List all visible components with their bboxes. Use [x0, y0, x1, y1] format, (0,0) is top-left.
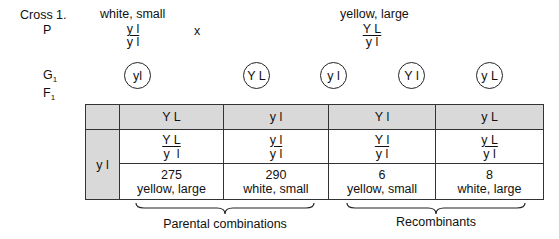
parent2-genotype-bottom: y l: [357, 36, 387, 49]
gamete-circle: y l: [320, 62, 347, 89]
g1-main: G: [43, 68, 53, 82]
gamete-circle: y L: [476, 62, 503, 89]
recombinant-brace-icon: [345, 201, 527, 215]
f1-label: F1: [43, 86, 55, 102]
table-header-row: Y L y l Y l y L: [86, 105, 544, 130]
offspring-phenotype: white, large: [436, 182, 543, 196]
parent2-genotype: Y L y l: [357, 23, 387, 49]
cross-symbol: x: [194, 24, 200, 38]
offspring-count: 6: [329, 168, 435, 182]
column-header: Y l: [329, 105, 436, 130]
genotype-top: y L: [436, 133, 543, 147]
parental-brace-icon: [134, 201, 316, 215]
genotype-cell: Y l y l: [329, 130, 436, 164]
offspring-count: 8: [436, 168, 543, 182]
genotype-bottom: y l: [329, 147, 435, 161]
row-header: y l: [86, 130, 120, 200]
gamete-circle: Y l: [398, 62, 425, 89]
count-cell: 8 white, large: [436, 164, 544, 200]
column-header: y L: [436, 105, 544, 130]
parental-combinations-label: Parental combinations: [160, 217, 290, 231]
punnett-table: Y L y l Y l y L y l Y L y l y l y l Y l …: [85, 104, 544, 200]
genotype-cell: Y L y l: [120, 130, 224, 164]
genotype-top: Y l: [329, 133, 435, 147]
table-corner: [86, 105, 120, 130]
offspring-phenotype: white, small: [224, 182, 328, 196]
g1-label: G1: [43, 68, 57, 84]
count-cell: 275 yellow, large: [120, 164, 224, 200]
parent1-phenotype: white, small: [100, 7, 165, 21]
cross-title: Cross 1.: [20, 8, 67, 22]
g1-sub: 1: [53, 75, 57, 84]
gamete-circle: Y L: [243, 62, 270, 89]
genotype-cell: y l y l: [224, 130, 329, 164]
table-row-genotype: y l Y L y l y l y l Y l y l y L y l: [86, 130, 544, 164]
parent2-phenotype: yellow, large: [340, 7, 409, 21]
genotype-bottom: y l: [224, 147, 328, 161]
offspring-phenotype: yellow, small: [329, 182, 435, 196]
parent1-genotype-bottom: y l: [118, 36, 148, 49]
genotype-top: y l: [224, 133, 328, 147]
column-header: y l: [224, 105, 329, 130]
gamete-circle: yl: [124, 62, 151, 89]
recombinants-label: Recombinants: [376, 215, 496, 229]
genotype-bottom: y l: [436, 147, 543, 161]
count-cell: 290 white, small: [224, 164, 329, 200]
offspring-count: 275: [120, 168, 223, 182]
parent1-genotype: y l y l: [118, 23, 148, 49]
f1-sub: 1: [51, 93, 55, 102]
p-label: P: [43, 23, 51, 37]
genotype-top: Y L: [120, 133, 223, 147]
count-cell: 6 yellow, small: [329, 164, 436, 200]
genotype-cell: y L y l: [436, 130, 544, 164]
column-header: Y L: [120, 105, 224, 130]
f1-main: F: [43, 86, 51, 100]
genotype-bottom: y l: [120, 147, 223, 161]
offspring-count: 290: [224, 168, 328, 182]
offspring-phenotype: yellow, large: [120, 182, 223, 196]
table-row-counts: 275 yellow, large 290 white, small 6 yel…: [86, 164, 544, 200]
